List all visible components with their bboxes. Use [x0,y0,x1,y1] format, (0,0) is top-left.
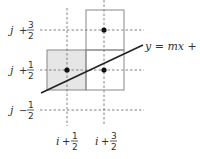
svg-text:2: 2 [111,142,117,152]
svg-text:+: + [62,136,70,147]
col-label-i-plus-1-2: i + 1 2 [56,131,78,152]
svg-text:i: i [95,135,99,148]
svg-text:j: j [7,104,14,117]
upper-center-dot [101,27,106,32]
midpoint-diagram: y = mx + h j + 3 2 j + 1 2 j − 1 2 i + 1… [0,0,200,159]
svg-text:1: 1 [28,60,34,70]
row-label-j-minus-1-2: j − 1 2 [7,100,34,121]
col-label-i-plus-3-2: i + 3 2 [95,131,117,152]
pixel-center-dot [64,67,69,72]
svg-text:+: + [101,136,109,147]
svg-text:2: 2 [72,142,78,152]
svg-text:1: 1 [28,100,34,110]
svg-text:j: j [7,64,14,77]
row-label-j-plus-1-2: j + 1 2 [7,60,34,81]
svg-text:1: 1 [72,131,78,141]
svg-text:2: 2 [28,31,34,41]
svg-text:2: 2 [28,111,34,121]
svg-text:j: j [7,24,14,37]
svg-text:2: 2 [28,71,34,81]
svg-text:i: i [56,135,60,148]
svg-text:3: 3 [111,131,117,141]
equation-label: y = mx + h [144,40,200,53]
svg-text:−: − [19,105,27,116]
svg-text:3: 3 [28,20,34,30]
right-center-dot [101,67,106,72]
row-label-j-plus-3-2: j + 3 2 [7,20,34,41]
svg-text:+: + [19,25,27,36]
svg-text:+: + [19,65,27,76]
